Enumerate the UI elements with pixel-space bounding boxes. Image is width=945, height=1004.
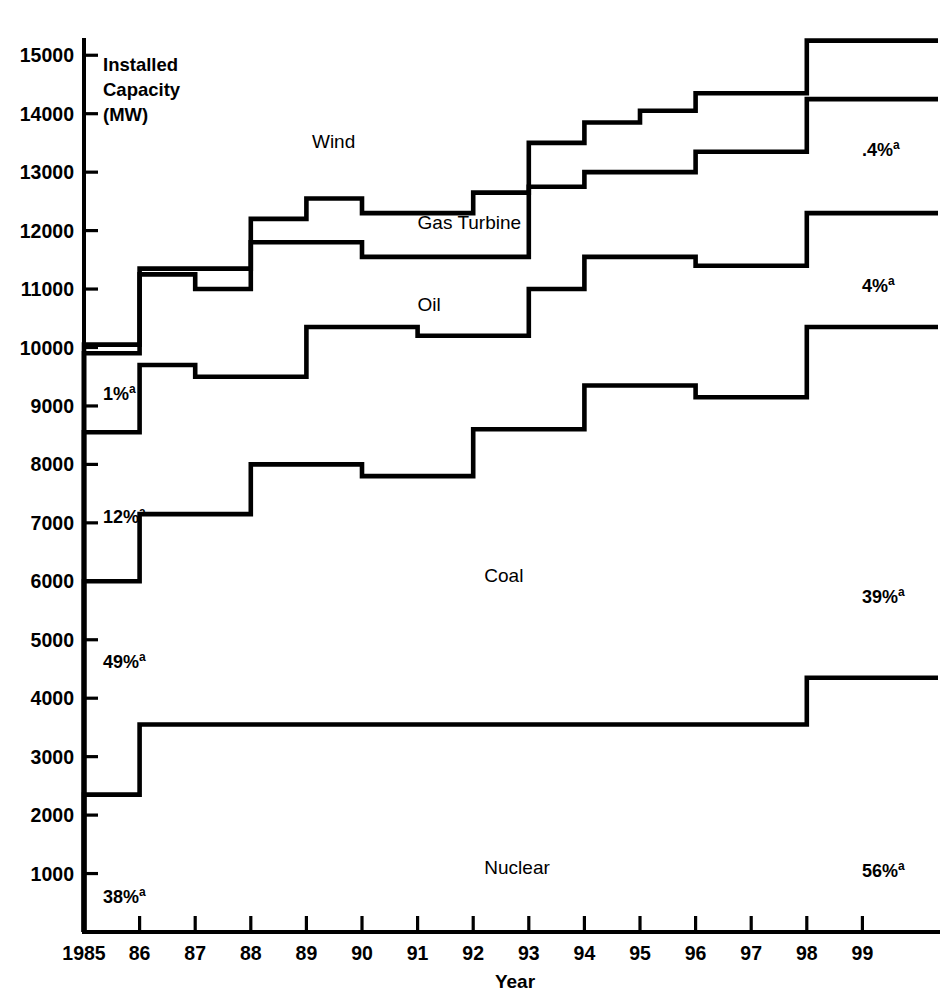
series-label-coal: Coal bbox=[484, 565, 523, 586]
y-tick-label: 2000 bbox=[31, 804, 75, 826]
x-tick-label: 87 bbox=[184, 942, 206, 964]
x-tick-label: 90 bbox=[351, 942, 373, 964]
y-tick-label: 15000 bbox=[20, 44, 74, 66]
y-tick-label: 11000 bbox=[21, 278, 74, 300]
x-axis-title: Year bbox=[495, 971, 536, 992]
y-axis-title-line-2: Capacity bbox=[103, 79, 181, 100]
series-label-gas-turbine: Gas Turbine bbox=[418, 212, 521, 233]
y-tick-label: 1000 bbox=[31, 863, 75, 885]
chart-container: 1500014000130001200011000100009000800070… bbox=[0, 0, 945, 1004]
y-tick-label: 8000 bbox=[31, 453, 75, 475]
x-tick-label: 96 bbox=[685, 942, 707, 964]
y-tick-label: 5000 bbox=[31, 629, 75, 651]
x-tick-label: 92 bbox=[462, 942, 484, 964]
x-tick-label: 93 bbox=[518, 942, 540, 964]
series-label-nuclear: Nuclear bbox=[484, 857, 550, 878]
y-tick-label: 13000 bbox=[20, 161, 74, 183]
x-tick-label: 89 bbox=[296, 942, 318, 964]
y-tick-label: 7000 bbox=[31, 512, 75, 534]
x-tick-label: 98 bbox=[796, 942, 818, 964]
x-tick-label: 86 bbox=[129, 942, 151, 964]
x-tick-label: 1985 bbox=[62, 942, 106, 964]
y-axis-title-line-3: (MW) bbox=[103, 104, 148, 125]
y-axis-title-line-1: Installed bbox=[103, 54, 178, 75]
x-tick-label: 95 bbox=[629, 942, 651, 964]
x-tick-label: 99 bbox=[852, 942, 874, 964]
y-tick-label: 10000 bbox=[20, 337, 74, 359]
series-label-oil: Oil bbox=[418, 294, 441, 315]
y-tick-label: 6000 bbox=[31, 570, 75, 592]
x-tick-label: 91 bbox=[407, 942, 429, 964]
x-tick-label: 88 bbox=[240, 942, 262, 964]
y-tick-label: 3000 bbox=[31, 746, 75, 768]
step-area-chart: 1500014000130001200011000100009000800070… bbox=[0, 0, 945, 1004]
x-axis-tick-labels: 19858687888990919293949596979899 bbox=[62, 942, 873, 964]
x-tick-label: 94 bbox=[574, 942, 596, 964]
x-tick-label: 97 bbox=[740, 942, 762, 964]
y-tick-label: 12000 bbox=[20, 220, 74, 242]
y-tick-label: 9000 bbox=[31, 395, 75, 417]
y-tick-label: 4000 bbox=[31, 687, 75, 709]
y-tick-label: 14000 bbox=[20, 103, 74, 125]
series-label-wind: Wind bbox=[312, 131, 355, 152]
